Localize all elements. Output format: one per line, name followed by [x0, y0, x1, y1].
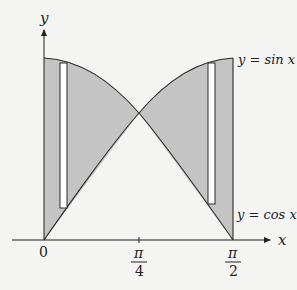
shaded-region-right — [139, 58, 233, 240]
shaded-region-left — [44, 58, 139, 240]
area-between-sin-cos-diagram: y x 0 π 4 π 2 y = sin x y = cos x — [0, 0, 297, 290]
tick-label-origin: 0 — [39, 244, 48, 260]
cos-curve-label: y = cos x — [236, 207, 297, 222]
tick-label-pi-over-2-den: 2 — [229, 263, 238, 279]
right-strip — [208, 63, 215, 204]
tick-label-pi-over-4-den: 4 — [135, 263, 144, 279]
x-axis-label: x — [278, 231, 287, 249]
tick-label-pi-over-4-num: π — [133, 245, 144, 261]
tick-label-pi-over-2-num: π — [227, 245, 238, 261]
sin-curve-label: y = sin x — [237, 52, 296, 67]
left-strip — [60, 63, 67, 208]
y-axis-label: y — [39, 9, 49, 27]
